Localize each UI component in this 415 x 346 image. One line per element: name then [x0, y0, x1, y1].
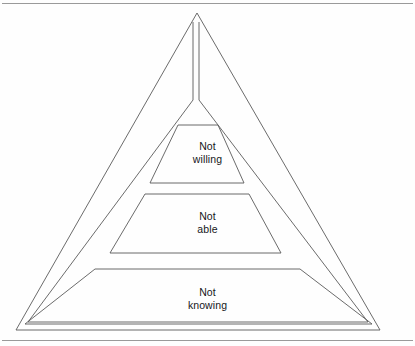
band-label-not-willing: Not willing — [0, 140, 415, 166]
band-label-not-able: Not able — [0, 210, 415, 236]
diagram-canvas: Not willing Not able Not knowing — [0, 0, 415, 346]
inner-triangle-outline — [28, 22, 368, 322]
band-label-not-knowing: Not knowing — [0, 286, 415, 312]
outer-triangle-outline — [16, 13, 380, 330]
